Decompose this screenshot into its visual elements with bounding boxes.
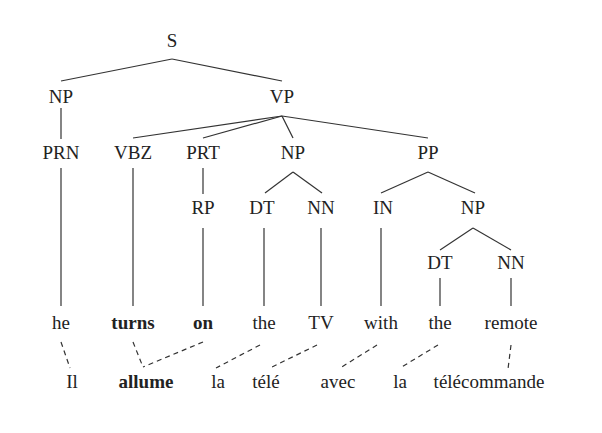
french-word: allume: [119, 371, 174, 393]
english-word: remote: [485, 312, 538, 334]
tree-node-vbz: VBZ: [114, 142, 152, 164]
tree-edge: [133, 116, 282, 138]
tree-node-prn: PRN: [43, 142, 80, 164]
english-word: he: [52, 312, 70, 334]
french-word: avec: [321, 371, 356, 393]
tree-edge: [381, 172, 428, 193]
tree-edge: [282, 116, 293, 138]
alignment-link: [61, 342, 70, 368]
english-word: on: [193, 312, 213, 334]
parse-tree-lines: [0, 0, 602, 433]
tree-edge: [265, 172, 293, 193]
tree-edge: [293, 172, 322, 193]
word-alignment-links: [61, 342, 511, 369]
alignment-link: [133, 342, 143, 367]
english-word: turns: [111, 312, 154, 334]
tree-edge: [61, 59, 172, 81]
alignment-link: [340, 345, 377, 368]
tree-edge: [473, 228, 511, 250]
tree-edge: [172, 59, 282, 81]
tree-node-pp: PP: [417, 142, 438, 164]
french-word: télécommande: [434, 371, 545, 393]
tree-node-vp: VP: [270, 86, 294, 108]
tree-node-dt2: DT: [427, 252, 452, 274]
alignment-link: [400, 345, 438, 368]
alignment-link: [216, 345, 260, 368]
alignment-link: [143, 342, 203, 367]
alignment-link: [508, 345, 511, 369]
tree-node-nn1: NN: [307, 197, 334, 219]
tree-edge: [203, 116, 282, 138]
tree-edge: [282, 116, 428, 138]
french-word: télé: [252, 371, 279, 393]
english-word: the: [252, 312, 275, 334]
tree-node-np1: NP: [49, 86, 73, 108]
tree-node-np3: NP: [461, 197, 485, 219]
tree-node-in: IN: [373, 197, 393, 219]
english-word: the: [428, 312, 451, 334]
french-word: la: [393, 371, 407, 393]
english-word: TV: [308, 312, 333, 334]
french-word: Il: [66, 371, 78, 393]
alignment-link: [270, 345, 317, 368]
tree-node-dt1: DT: [249, 197, 274, 219]
tree-node-np2: NP: [281, 142, 305, 164]
english-word: with: [364, 312, 398, 334]
french-word: la: [211, 371, 225, 393]
tree-node-rp: RP: [191, 197, 214, 219]
tree-node-nn2: NN: [497, 252, 524, 274]
tree-edge: [428, 172, 475, 193]
tree-node-s: S: [167, 30, 178, 52]
tree-node-prt: PRT: [186, 142, 220, 164]
tree-edge: [440, 228, 473, 250]
